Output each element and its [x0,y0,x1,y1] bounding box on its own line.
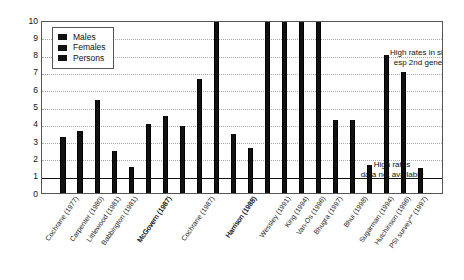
y-tick-label-3: 3 [4,138,38,147]
y-tick-label-7: 7 [4,68,38,77]
x-tick-label: McGovern (1987) [136,195,174,244]
x-tick-label: Harrison (1988) [225,195,259,239]
legend-item-persons: Persons [58,54,106,63]
legend-swatch-icon [58,55,67,61]
annotation-high-rates-siblings: High rates in siblings, esp 2nd generati… [372,48,443,68]
legend: MalesFemalesPersons [52,27,114,69]
bar [350,120,355,193]
bar [77,131,82,193]
y-tick-label-8: 8 [4,51,38,60]
gridline-3 [42,143,442,144]
bar [299,21,304,193]
gridline-5 [42,109,442,110]
x-axis-labels: Cochrane (1977)Carpenter (1980)Littlewoo… [41,195,443,280]
bar-chart: 012345678910 High rates in siblings, esp… [0,0,464,280]
legend-swatch-icon [58,34,67,40]
legend-label: Males [73,33,96,42]
y-tick-label-5: 5 [4,103,38,112]
x-tick-label: Cochrane (1987) [180,195,217,243]
legend-label: Females [73,43,106,52]
annotation-data-not-available: High rates data not available [342,160,442,180]
y-tick-label-10: 10 [4,17,38,26]
gridline-6 [42,91,442,92]
legend-item-males: Males [58,33,106,42]
bar [333,120,338,193]
bar [180,126,185,193]
bar [112,151,117,193]
bar [265,21,270,193]
y-tick-label-2: 2 [4,155,38,164]
y-tick-label-9: 9 [4,34,38,43]
y-tick-label-6: 6 [4,86,38,95]
bar [282,21,287,193]
bar [197,79,202,193]
bar [60,137,65,193]
y-tick-label-4: 4 [4,120,38,129]
bar [163,116,168,193]
bar [316,21,321,193]
gridline-4 [42,126,442,127]
bar [248,148,253,193]
y-tick-label-0: 0 [4,190,38,199]
y-tick-label-1: 1 [4,172,38,181]
y-axis: 012345678910 [0,21,38,194]
bar [214,21,219,193]
bar [146,124,151,193]
bar [129,167,134,193]
gridline-7 [42,74,442,75]
bar [95,100,100,193]
legend-label: Persons [73,54,104,63]
legend-item-females: Females [58,43,106,52]
bar [231,134,236,193]
x-tick-label: Bhui (1998) [342,195,369,229]
legend-swatch-icon [58,45,67,51]
